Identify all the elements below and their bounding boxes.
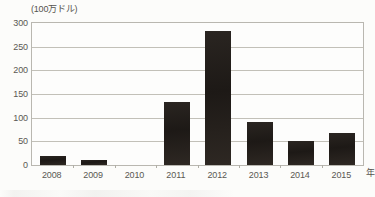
x-axis-tick-label: 2013 [249,170,269,180]
x-axis-tick-label: 2008 [42,170,62,180]
x-axis-tickmark [115,165,116,168]
bar [247,122,273,165]
plot-area: 050100150200250300 [31,22,364,166]
y-axis-tick-label: 200 [13,65,28,75]
bars-layer [32,23,363,165]
bar-chart: (100万ドル) 050100150200250300 200820092010… [0,0,375,197]
y-axis-tick-label: 300 [13,18,28,28]
bar [288,141,314,165]
bar-slot [239,23,280,165]
bar [40,156,66,165]
x-axis-labels: 20082009201020112012201320142015 [31,170,364,184]
bar [205,31,231,165]
y-axis-unit-label: (100万ドル) [31,2,77,15]
bar [329,133,355,165]
bar-slot [280,23,321,165]
y-axis-tick-label: 0 [23,160,28,170]
bar-slot [73,23,114,165]
x-axis-tick-label: 2015 [332,170,352,180]
x-axis-tickmark [239,165,240,168]
x-axis-tick-label: 2011 [166,170,185,180]
x-axis-tick-label: 2009 [83,170,103,180]
y-axis-tick-label: 250 [13,42,28,52]
bar-slot [198,23,239,165]
x-axis-tickmark [198,165,199,168]
bar [81,160,107,165]
bar-slot [115,23,156,165]
y-axis-tick-label: 100 [13,113,28,123]
bar-slot [322,23,363,165]
bar [164,102,190,165]
x-axis-tick-label: 2010 [125,170,145,180]
x-axis-tick-label: 2014 [290,170,310,180]
y-axis-tick-label: 150 [13,89,28,99]
x-axis-tick-label: 2012 [207,170,227,180]
x-axis-tickmark [280,165,281,168]
y-axis-tick-label: 50 [18,136,28,146]
x-axis-tickmark [156,165,157,168]
bar-slot [32,23,73,165]
x-axis-unit-label: 年 [366,166,375,179]
x-axis-tickmark [322,165,323,168]
x-axis-tickmark [73,165,74,168]
scan-artifact [0,190,375,197]
bar-slot [156,23,197,165]
